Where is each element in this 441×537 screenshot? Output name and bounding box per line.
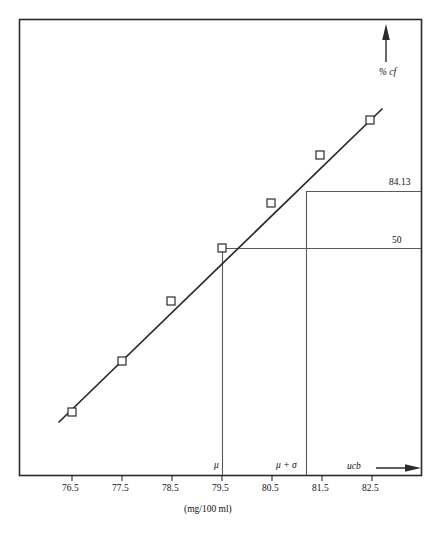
data-point: [118, 357, 126, 365]
reference-label-8413: 84.13: [389, 178, 410, 188]
figure-canvas: % cf 84.13 50 μ μ + σ ucb 76.5 77.5 78.5…: [0, 0, 441, 537]
y-axis-title: % cf: [379, 68, 396, 78]
right-arrow-head: [405, 464, 421, 472]
ucb-label: ucb: [347, 462, 361, 472]
x-tick-label: 76.5: [62, 484, 79, 494]
x-axis-title: (mg/100 ml): [184, 505, 232, 515]
fitted-line-group: [59, 109, 382, 422]
x-tick-label: 79.5: [212, 484, 229, 494]
data-point: [167, 297, 175, 305]
reference-label-50: 50: [392, 236, 402, 246]
fitted-regression-line: [59, 109, 382, 422]
x-tick-label: 78.5: [162, 484, 179, 494]
x-tick-label: 82.5: [362, 484, 379, 494]
reference-lines: [222, 191, 421, 475]
x-tick-label: 80.5: [262, 484, 279, 494]
up-arrow-icon: [382, 24, 390, 62]
data-point: [316, 151, 324, 159]
data-point: [68, 408, 76, 416]
right-arrow-icon: [376, 464, 421, 472]
mu-plus-sigma-label: μ + σ: [276, 461, 297, 471]
data-point: [218, 244, 226, 252]
x-tick-label: 77.5: [112, 484, 129, 494]
x-tick-label: 81.5: [312, 484, 329, 494]
data-point: [267, 199, 275, 207]
up-arrow-head: [382, 24, 390, 40]
mu-label: μ: [214, 461, 219, 471]
data-point: [366, 116, 374, 124]
normal-probability-plot: [0, 0, 441, 537]
